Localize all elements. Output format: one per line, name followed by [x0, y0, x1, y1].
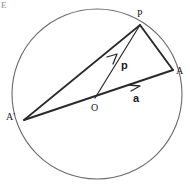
vector-p-shaft	[95, 25, 140, 98]
corner-artifact-label: E	[1, 1, 7, 10]
segment-aprime-p	[24, 25, 140, 120]
point-label-p: P	[137, 9, 143, 19]
point-label-o: O	[91, 103, 98, 113]
point-label-a: A	[176, 66, 183, 76]
segment-aprime-a	[24, 70, 173, 120]
vector-p-arrowhead	[107, 54, 117, 64]
circle-vector-figure: E P A A' O p a	[0, 0, 189, 186]
vector-label-p: p	[121, 60, 128, 71]
vector-label-a: a	[133, 93, 139, 104]
vector-a-arrowhead	[129, 85, 140, 91]
point-label-a-prime: A'	[6, 112, 15, 122]
geometry-canvas	[0, 0, 189, 186]
